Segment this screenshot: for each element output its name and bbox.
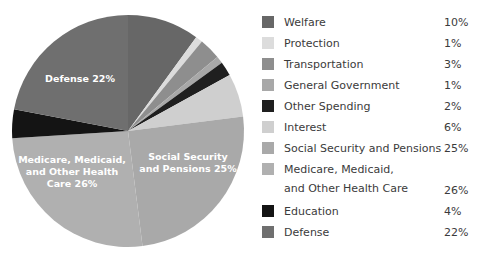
legend-item-label: Protection: [274, 34, 444, 53]
legend-swatch-icon: [262, 37, 274, 49]
legend-item[interactable]: General Government1%: [262, 76, 477, 97]
legend-item-label: Transportation: [274, 55, 444, 74]
legend-item-value: 22%: [444, 223, 468, 242]
legend-swatch-icon: [262, 205, 274, 217]
legend-item-value: 25%: [444, 139, 468, 158]
legend-item-value: 3%: [444, 55, 461, 74]
legend-item[interactable]: Education4%: [262, 202, 477, 223]
pie-slice[interactable]: [12, 131, 142, 247]
pie-svg: Defense 22%Medicare, Medicaid,and Other …: [0, 0, 260, 259]
legend-swatch-icon: [262, 163, 274, 175]
legend-swatch-icon: [262, 79, 274, 91]
legend-item[interactable]: Interest6%: [262, 118, 477, 139]
legend-swatch-icon: [262, 142, 274, 154]
legend-swatch-icon: [262, 58, 274, 70]
legend-item-label: Interest: [274, 118, 444, 137]
legend-item-value: 4%: [444, 202, 461, 221]
pie-slice-label: Defense 22%: [45, 73, 115, 84]
legend-item[interactable]: Medicare, Medicaid, and Other Health Car…: [262, 160, 477, 202]
legend-swatch-icon: [262, 226, 274, 238]
legend-item-value: 6%: [444, 118, 461, 137]
legend-item-value: 10%: [444, 13, 468, 32]
legend-item-label: Defense: [274, 223, 444, 242]
legend-item-label: Education: [274, 202, 444, 221]
pie-slices: [12, 15, 244, 247]
legend-item-label: Medicare, Medicaid, and Other Health Car…: [274, 160, 444, 198]
legend-item[interactable]: Social Security and Pensions25%: [262, 139, 477, 160]
legend-swatch-icon: [262, 16, 274, 28]
legend-item-value: 1%: [444, 34, 461, 53]
chart-legend: Welfare10%Protection1%Transportation3%Ge…: [262, 13, 477, 244]
legend-item-label: General Government: [274, 76, 444, 95]
legend-item-label: Social Security and Pensions: [274, 139, 444, 158]
legend-item-label: Welfare: [274, 13, 444, 32]
legend-item[interactable]: Other Spending2%: [262, 97, 477, 118]
legend-item[interactable]: Defense22%: [262, 223, 477, 244]
legend-item[interactable]: Welfare10%: [262, 13, 477, 34]
legend-item-value: 2%: [444, 97, 461, 116]
pie-slice-label: Social Securityand Pensions 25%: [139, 151, 237, 174]
pie-slice[interactable]: [128, 116, 244, 246]
legend-swatch-icon: [262, 100, 274, 112]
legend-item-value: 26%: [444, 181, 468, 202]
legend-item-value: 1%: [444, 76, 461, 95]
legend-item-label: Other Spending: [274, 97, 444, 116]
legend-item[interactable]: Protection1%: [262, 34, 477, 55]
pie-chart-plot: Defense 22%Medicare, Medicaid,and Other …: [0, 0, 260, 259]
pie-chart-figure: Defense 22%Medicare, Medicaid,and Other …: [0, 0, 477, 259]
legend-item[interactable]: Transportation3%: [262, 55, 477, 76]
legend-swatch-icon: [262, 121, 274, 133]
